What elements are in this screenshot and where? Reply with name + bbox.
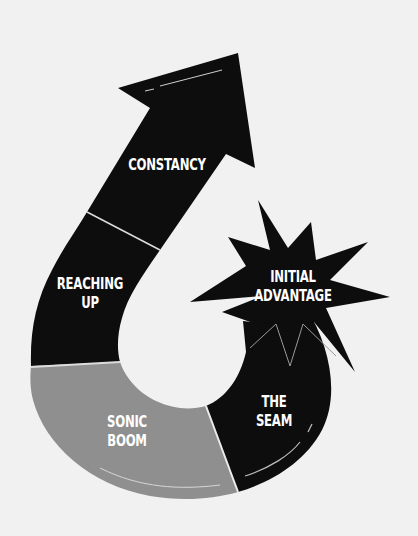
curved-arrow-graphic <box>0 0 418 536</box>
segment-constancy-arrow <box>87 53 255 250</box>
label-the-seam: THE SEAM <box>235 393 313 431</box>
diagram-canvas: CONSTANCY REACHING UP INITIAL ADVANTAGE … <box>0 0 418 536</box>
label-initial-advantage: INITIAL ADVANTAGE <box>254 268 332 306</box>
label-the-seam-line1: THE <box>235 393 313 412</box>
label-reaching-up-line2: UP <box>51 294 129 313</box>
label-initial-advantage-line1: INITIAL <box>254 268 332 287</box>
label-sonic-boom-line2: BOOM <box>88 432 166 451</box>
label-reaching-up: REACHING UP <box>51 275 129 313</box>
label-sonic-boom: SONIC BOOM <box>88 413 166 451</box>
label-sonic-boom-line1: SONIC <box>88 413 166 432</box>
label-reaching-up-line1: REACHING <box>51 275 129 294</box>
label-initial-advantage-line2: ADVANTAGE <box>254 287 332 306</box>
label-the-seam-line2: SEAM <box>235 412 313 431</box>
label-constancy-line1: CONSTANCY <box>128 156 206 175</box>
label-constancy: CONSTANCY <box>128 156 206 175</box>
